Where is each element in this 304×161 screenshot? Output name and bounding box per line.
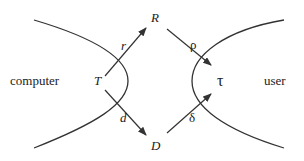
- node-d: D: [151, 139, 160, 152]
- arrow-r-to-tau: [167, 29, 211, 65]
- node-t: T: [94, 74, 101, 87]
- interaction-diagram: computer user T R D τ r ρ d δ: [0, 0, 304, 161]
- node-r: R: [151, 11, 159, 24]
- edge-label-r: r: [121, 39, 126, 52]
- edge-label-d: d: [120, 111, 127, 124]
- edge-label-rho: ρ: [190, 38, 197, 51]
- region-label-user: user: [264, 74, 286, 87]
- edge-label-delta: δ: [189, 111, 195, 124]
- region-label-computer: computer: [10, 74, 59, 87]
- node-tau: τ: [217, 73, 223, 89]
